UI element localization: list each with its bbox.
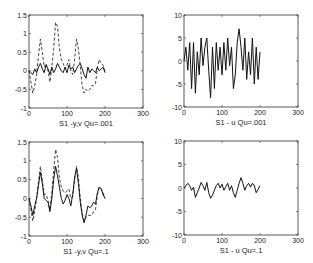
y-tick-label: 0 <box>23 195 27 202</box>
axes-box <box>29 142 143 236</box>
series-u-line <box>184 29 260 98</box>
subplot-u-qu001: 0100200300-10-50510S1 - u Qu=.001 <box>172 12 304 128</box>
subplot-u-qu1: 0100200300-10-50510S1 - u Qu=.1 <box>172 138 304 256</box>
y-tick-label: 10 <box>174 138 182 145</box>
x-tick-label: 300 <box>137 110 149 117</box>
x-tick-label: 0 <box>27 238 31 245</box>
y-tick-label: 5 <box>178 35 182 42</box>
axes-box <box>29 15 143 108</box>
series-y-line <box>29 166 105 222</box>
y-tick-label: -5 <box>176 81 182 88</box>
subplot-yv-qu001: 0100200300-1-0.500.511.5S1 -y,v Qu=.001 <box>15 12 149 129</box>
y-tick-label: -0.5 <box>15 86 27 93</box>
x-tick-label: 200 <box>99 110 111 117</box>
y-tick-label: -5 <box>176 208 182 215</box>
x-tick-label: 0 <box>182 109 186 116</box>
x-tick-label: 100 <box>61 238 73 245</box>
y-tick-label: 10 <box>174 12 182 19</box>
subplot-title: S1 - u Qu=.001 <box>215 118 266 127</box>
y-tick-label: 1.5 <box>17 12 27 19</box>
y-tick-label: -0.5 <box>15 214 27 221</box>
x-tick-label: 200 <box>254 237 266 244</box>
y-tick-label: 0.5 <box>17 49 27 56</box>
x-tick-label: 300 <box>292 237 304 244</box>
series-v-line <box>29 22 105 93</box>
y-tick-label: -10 <box>172 104 182 111</box>
subplot-title: S1 - u Qu=.1 <box>220 246 263 255</box>
y-tick-label: -10 <box>172 232 182 239</box>
y-tick-label: 5 <box>178 161 182 168</box>
y-tick-label: 0.5 <box>17 176 27 183</box>
x-tick-label: 300 <box>292 109 304 116</box>
axes-box <box>184 15 298 107</box>
x-tick-label: 100 <box>216 109 228 116</box>
subplot-title: S1 -y,v Qu=.001 <box>59 119 113 128</box>
y-tick-label: -1 <box>21 233 27 240</box>
subplot-title: S1 -y,v Qu=.1 <box>63 247 109 256</box>
y-tick-label: 0 <box>23 67 27 74</box>
x-tick-label: 300 <box>137 238 149 245</box>
y-tick-label: -1 <box>21 105 27 112</box>
x-tick-label: 0 <box>27 110 31 117</box>
x-tick-label: 0 <box>182 237 186 244</box>
x-tick-label: 200 <box>99 238 111 245</box>
series-u-line <box>184 178 260 199</box>
axes-box <box>184 141 298 235</box>
y-tick-label: 0 <box>178 58 182 65</box>
y-tick-label: 1 <box>23 157 27 164</box>
y-tick-label: 0 <box>178 185 182 192</box>
y-tick-label: 1 <box>23 30 27 37</box>
series-v-line <box>29 150 105 222</box>
x-tick-label: 200 <box>254 109 266 116</box>
subplot-yv-qu1: 0100200300-1-0.500.511.5S1 -y,v Qu=.1 <box>15 139 149 257</box>
x-tick-label: 100 <box>61 110 73 117</box>
x-tick-label: 100 <box>216 237 228 244</box>
y-tick-label: 1.5 <box>17 139 27 146</box>
figure: 0100200300-1-0.500.511.5S1 -y,v Qu=.0010… <box>0 0 313 263</box>
